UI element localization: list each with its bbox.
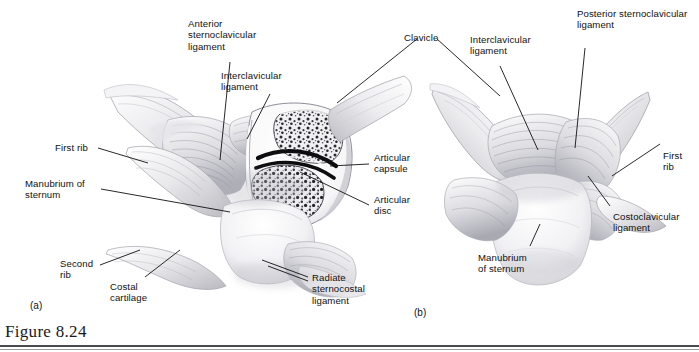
left-clavicle-shaft-b <box>430 84 530 184</box>
leader-first-rib-left <box>98 148 148 163</box>
label-costal-cartilage: Costal cartilage <box>110 281 147 304</box>
leader-radiate-sternocostal-ligament-1 <box>262 260 308 277</box>
leader-articular-capsule <box>330 164 369 166</box>
left-clavicle-shaft <box>104 85 244 177</box>
label-costoclavicular-ligament: Costoclavicular ligament <box>613 211 680 234</box>
leader-costal-cartilage <box>145 250 180 277</box>
anterior-sternoclavicular-ligament-art <box>150 116 250 195</box>
label-second-rib: Second rib <box>60 258 93 281</box>
label-clavicle: Clavicle <box>404 32 438 43</box>
posterior-sternoclavicular-ligament-art <box>555 118 620 195</box>
label-articular-capsule: Articular capsule <box>374 152 410 175</box>
panel-letter-b: (b) <box>414 307 426 318</box>
leader-costoclavicular-ligament <box>588 176 610 206</box>
caption-rule <box>0 345 699 347</box>
first-rib-art-a <box>126 146 236 217</box>
caption-rule-secondary <box>0 349 699 350</box>
leader-articular-disc <box>300 172 369 205</box>
label-articular-disc: Articular disc <box>374 194 410 217</box>
figure-caption: Figure 8.24 <box>5 322 87 342</box>
sternoclavicular-joint-section <box>246 103 352 229</box>
label-anterior-sternoclavicular-ligament: Anterior sternoclavicular ligament <box>188 18 256 52</box>
left-lower-fibres-b <box>444 178 518 241</box>
leader-interclavicular-ligament-right <box>500 66 538 150</box>
label-interclavicular-ligament-right: Interclavicular ligament <box>470 34 531 57</box>
panel-b-posterior-view <box>430 84 666 285</box>
leader-interclavicular-ligament-left <box>247 94 270 139</box>
label-first-rib-left: First rib <box>55 142 88 153</box>
label-manubrium-of-sternum-left: Manubrium of sternum <box>25 178 85 201</box>
leader-clavicle-left <box>337 39 417 103</box>
label-first-rib-right: First rib <box>663 150 682 173</box>
interclavicular-ligament-art-b <box>488 114 590 185</box>
label-interclavicular-ligament-left: Interclavicular ligament <box>221 70 282 93</box>
leader-posterior-sternoclavicular-ligament <box>575 48 585 148</box>
label-posterior-sternoclavicular-ligament: Posterior sternoclavicular ligament <box>577 8 687 31</box>
manubrium-art-a <box>220 200 314 284</box>
leader-manubrium-left <box>101 189 230 212</box>
interclavicular-ligament-art-a <box>229 116 276 158</box>
leader-second-rib <box>100 250 140 265</box>
figure-8-24: Anterior sternoclavicular ligament Inter… <box>0 0 699 352</box>
right-clavicle-shaft-b <box>560 92 650 192</box>
label-radiate-sternocostal-ligament: Radiate sternocostal ligament <box>312 272 365 306</box>
right-clavicle-shaft-a <box>328 76 411 142</box>
panel-a-anterior-view <box>104 76 412 297</box>
leader-manubrium-right <box>530 224 540 246</box>
panel-letter-a: (a) <box>30 300 42 311</box>
leader-radiate-sternocostal-ligament-2 <box>268 266 308 281</box>
leader-first-rib-right <box>612 144 660 176</box>
label-manubrium-of-sternum-right: Manubrium of sternum <box>478 252 527 275</box>
